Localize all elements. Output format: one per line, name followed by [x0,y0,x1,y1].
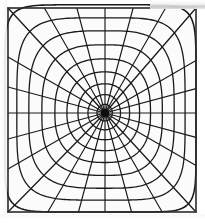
polar-grid-diagram [0,0,205,223]
figure-root: Polar coordinate grid with square outer … [0,0,205,223]
center-convergence-blob [101,109,109,117]
